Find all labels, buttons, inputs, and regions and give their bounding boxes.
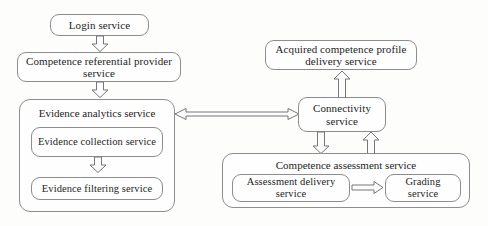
node-grading-service-label: Grading service: [386, 176, 460, 200]
node-acquired-competence-profile-delivery-service-label: Acquired competence profile delivery ser…: [266, 43, 416, 68]
node-competence-referential-provider-service-label: Competence referential provider service: [18, 55, 180, 80]
node-login-service-label: Login service: [65, 19, 134, 31]
diagram-canvas: Login service Competence referential pro…: [0, 0, 488, 226]
node-evidence-filtering-service: Evidence filtering service: [31, 177, 163, 200]
edge-login-to-referential-arrow: [91, 36, 109, 52]
node-evidence-collection-service-label: Evidence collection service: [34, 136, 160, 148]
container-competence-assessment-service-label: Competence assessment service: [223, 159, 469, 171]
node-login-service: Login service: [50, 14, 149, 36]
node-assessment-delivery-service-label: Assessment delivery service: [233, 176, 349, 200]
edge-analytics-connectivity-double-arrow: [175, 107, 299, 121]
edge-delivery-to-grading-arrow: [352, 181, 384, 194]
node-evidence-collection-service: Evidence collection service: [31, 127, 163, 157]
edge-assessment-to-connectivity-arrow: [362, 132, 380, 154]
edge-connectivity-to-assessment-arrow: [312, 132, 330, 154]
node-assessment-delivery-service: Assessment delivery service: [232, 174, 350, 202]
edge-collection-to-filtering-arrow: [89, 157, 107, 173]
node-acquired-competence-profile-delivery-service: Acquired competence profile delivery ser…: [265, 40, 417, 70]
container-evidence-analytics-service-label: Evidence analytics service: [20, 107, 174, 119]
node-connectivity-service: Connectivity service: [298, 97, 386, 132]
edge-connectivity-to-profile-delivery-arrow: [333, 71, 351, 98]
node-evidence-filtering-service-label: Evidence filtering service: [38, 183, 156, 195]
edge-referential-to-analytics-arrow: [91, 82, 109, 98]
node-grading-service: Grading service: [385, 174, 461, 202]
node-connectivity-service-label: Connectivity service: [299, 102, 385, 127]
node-competence-referential-provider-service: Competence referential provider service: [17, 52, 181, 82]
